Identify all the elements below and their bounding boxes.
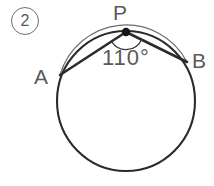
- geometry-figure: P A B 110° 2: [0, 0, 214, 186]
- point-P-dot: [122, 28, 130, 36]
- problem-number-badge: 2: [11, 7, 39, 35]
- point-label-P: P: [113, 2, 127, 23]
- point-label-A: A: [34, 66, 48, 87]
- angle-measure-label: 110°: [102, 47, 150, 69]
- point-label-B: B: [192, 50, 206, 71]
